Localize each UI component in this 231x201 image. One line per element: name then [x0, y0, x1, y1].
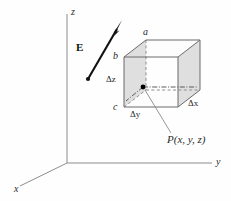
- field-arrow-tail-dot: [86, 77, 90, 81]
- differential-volume-box: [124, 40, 200, 107]
- box-dimension-label-delta-x: Δx: [188, 99, 198, 108]
- physics-figure-canvas: z y x E a b c Δz Δy Δx P(x, y, z): [0, 0, 231, 201]
- box-vertex-label-c: c: [113, 102, 117, 112]
- point-p-label: P(x, y, z): [167, 134, 205, 145]
- x-axis-label: x: [14, 184, 18, 194]
- box-dimension-label-delta-y: Δy: [130, 110, 140, 119]
- y-axis-label: y: [216, 157, 220, 167]
- box-vertex-label-b: b: [113, 51, 118, 61]
- z-axis-label: z: [71, 7, 75, 17]
- x-axis-line: [20, 163, 67, 186]
- point-p-marker: [141, 85, 146, 90]
- electric-field-label: E: [76, 42, 83, 53]
- box-dimension-label-delta-z: Δz: [106, 75, 116, 84]
- box-vertex-label-a: a: [143, 27, 148, 37]
